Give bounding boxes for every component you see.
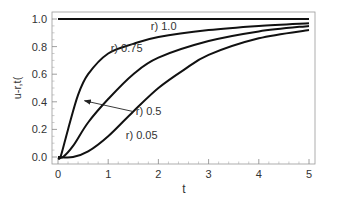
x-tick-label: 1: [105, 168, 111, 180]
axis-ticks: [52, 19, 309, 164]
series-annotation: r) 0.05: [126, 129, 158, 141]
series-annotation: r) 1.0: [151, 20, 177, 32]
x-tick-label: 4: [256, 168, 262, 180]
x-tick-label: 3: [206, 168, 212, 180]
data-series: [58, 19, 309, 159]
x-axis-label: t: [182, 182, 186, 196]
annotation-arrow: [85, 101, 133, 112]
y-tick-label: 0.0: [32, 151, 47, 163]
x-tick-label: 2: [155, 168, 161, 180]
line-chart: 0123450.00.20.40.60.81.0 r) 1.0r) 0.75r)…: [0, 0, 338, 207]
x-tick-label: 0: [55, 168, 61, 180]
y-tick-label: 0.6: [32, 68, 47, 80]
y-axis-label: u-r,t(: [11, 76, 23, 99]
y-tick-label: 0.4: [32, 96, 47, 108]
chart-svg: 0123450.00.20.40.60.81.0 r) 1.0r) 0.75r)…: [0, 0, 338, 207]
x-tick-label: 5: [306, 168, 312, 180]
y-tick-label: 1.0: [32, 13, 47, 25]
y-tick-label: 0.2: [32, 123, 47, 135]
series-annotation: r) 0.5: [136, 105, 162, 117]
annotations: r) 1.0r) 0.75r) 0.5r) 0.05: [85, 20, 177, 141]
series-line: [58, 26, 309, 158]
y-tick-label: 0.8: [32, 41, 47, 53]
tick-labels: 0123450.00.20.40.60.81.0: [32, 13, 312, 180]
series-line: [58, 23, 309, 159]
series-annotation: r) 0.75: [111, 42, 143, 54]
